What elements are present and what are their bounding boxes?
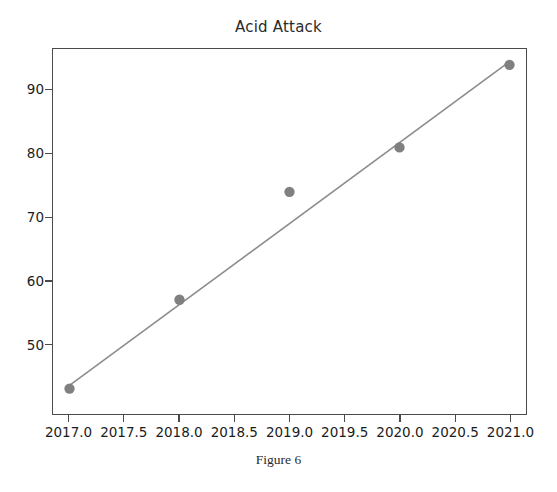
y-tick-label: 70 [10, 209, 44, 225]
x-tick-mark [344, 415, 345, 422]
y-tick-label: 90 [10, 81, 44, 97]
data-point [504, 60, 514, 70]
data-point [174, 295, 184, 305]
data-point [394, 142, 404, 152]
x-tick-label: 2020.5 [432, 424, 479, 440]
x-tick-mark [234, 415, 235, 422]
y-tick-label: 80 [10, 145, 44, 161]
x-tick-label: 2018.5 [211, 424, 258, 440]
plot-canvas [53, 49, 526, 414]
x-tick-mark [455, 415, 456, 422]
x-tick-mark [510, 415, 511, 422]
data-point [64, 383, 74, 393]
figure-caption: Figure 6 [0, 452, 557, 468]
figure-container: Acid Attack 5060708090 2017.02017.52018.… [0, 0, 557, 492]
x-tick-label: 2018.0 [155, 424, 202, 440]
x-tick-mark [123, 415, 124, 422]
x-tick-mark [399, 415, 400, 422]
x-tick-mark [178, 415, 179, 422]
x-tick-label: 2021.0 [487, 424, 534, 440]
chart-title: Acid Attack [0, 18, 557, 36]
trend-line [70, 62, 510, 386]
x-axis-tick-marks [0, 415, 557, 423]
data-point [284, 187, 294, 197]
x-tick-mark [289, 415, 290, 422]
y-tick-mark [45, 153, 52, 154]
y-tick-label: 50 [10, 337, 44, 353]
x-tick-label: 2019.0 [266, 424, 313, 440]
y-tick-mark [45, 280, 52, 281]
y-tick-mark [45, 217, 52, 218]
plot-area [52, 48, 527, 415]
y-tick-mark [45, 344, 52, 345]
x-axis-labels: 2017.02017.52018.02018.52019.02019.52020… [0, 424, 557, 444]
y-tick-mark [45, 89, 52, 90]
x-tick-label: 2020.0 [376, 424, 423, 440]
x-tick-label: 2017.5 [100, 424, 147, 440]
x-tick-label: 2019.5 [321, 424, 368, 440]
x-tick-mark [68, 415, 69, 422]
y-tick-label: 60 [10, 273, 44, 289]
x-tick-label: 2017.0 [45, 424, 92, 440]
